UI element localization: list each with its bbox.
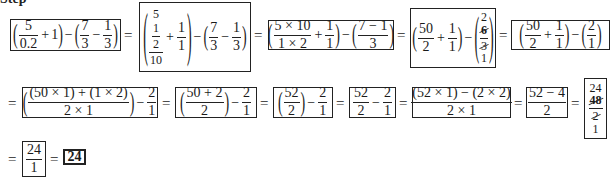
fraction: 11 xyxy=(325,19,334,51)
fraction: 11 xyxy=(177,21,186,53)
equals-sign: = xyxy=(162,96,170,111)
expr-box-12: 24 48 2 1 xyxy=(584,78,607,139)
expr-box-2: ( 5 12 10 + 11 ) − ( 73 − 13 ) xyxy=(139,2,251,72)
expr-box-6: ( (50 × 1) + (1 × 2)2 × 1 ) − 21 xyxy=(22,87,158,118)
fraction: 502 xyxy=(525,19,541,51)
fraction: 522 xyxy=(353,86,369,118)
fraction: 50.2 xyxy=(19,19,39,51)
expr-box-11: 52 − 42 xyxy=(526,87,568,118)
fraction: 52 − 42 xyxy=(528,86,566,118)
fraction: 5 × 101 × 2 xyxy=(274,19,312,51)
cancelled-fraction: 2 6 3 1 xyxy=(480,11,488,64)
equals-sign: = xyxy=(399,96,407,111)
expr-box-4: ( 502 + 11 ) − ( 2 6 3 1 ) xyxy=(410,8,496,68)
fraction: 21 xyxy=(587,19,596,51)
expr-box-10: (52 × 1) − (2 × 2)2 × 1 xyxy=(412,87,511,118)
expr-box-9: 522 − 21 xyxy=(349,87,396,118)
equals-sign: = xyxy=(50,152,58,167)
fraction: 502 xyxy=(418,22,434,54)
left-paren: ( xyxy=(13,21,18,49)
fraction: 241 xyxy=(26,143,42,175)
expr-box-3: ( 5 × 101 × 2 + 11 ) − ( 7 − 13 ) xyxy=(268,20,394,50)
expr-box-1: ( 50.2 +1 ) − ( 73 − 13 ) xyxy=(10,19,121,51)
equals-sign: = xyxy=(336,96,344,111)
equals-sign: = xyxy=(124,28,132,43)
step-label-partial: Step xyxy=(0,0,26,7)
fraction: (52 × 1) − (2 × 2)2 × 1 xyxy=(411,86,511,118)
fraction: 522 xyxy=(284,86,300,118)
fraction: (50 × 1) + (1 × 2)2 × 1 xyxy=(28,86,128,118)
equals-sign: = xyxy=(514,96,522,111)
expr-box-8: ( 522 ) − 21 xyxy=(273,87,333,118)
equals-sign: = xyxy=(254,28,262,43)
equals-sign: = xyxy=(260,96,268,111)
fraction: 11 xyxy=(448,22,457,54)
fraction: 50 + 22 xyxy=(186,86,224,118)
equals-sign: = xyxy=(397,28,405,43)
fraction: 21 xyxy=(383,86,392,118)
fraction: 21 xyxy=(242,86,251,118)
fraction: 21 xyxy=(318,86,327,118)
fraction: 7 − 13 xyxy=(358,19,389,51)
cancelled-fraction: 24 48 2 1 xyxy=(589,82,603,135)
fraction: 73 xyxy=(80,19,89,51)
expr-box-13: 241 xyxy=(22,141,46,177)
fraction: 13 xyxy=(103,19,112,51)
equals-sign: = xyxy=(499,28,507,43)
fraction: 11 xyxy=(555,19,564,51)
final-answer: 24 xyxy=(68,149,82,165)
equals-sign: = xyxy=(8,96,16,111)
expr-box-7: ( 50 + 22 ) − 21 xyxy=(175,87,257,118)
fraction: 73 xyxy=(209,21,218,53)
expr-box-5: ( 502 + 11 ) − ( 21 ) xyxy=(511,20,610,50)
final-answer-box: 24 xyxy=(63,149,86,165)
compound-fraction: 5 12 10 xyxy=(149,8,163,66)
fraction: 21 xyxy=(147,86,156,118)
equals-sign: = xyxy=(571,96,579,111)
equals-sign: = xyxy=(8,152,16,167)
fraction: 13 xyxy=(232,21,241,53)
